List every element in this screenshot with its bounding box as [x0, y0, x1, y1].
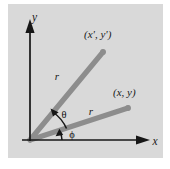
ray-rotated-endpoint-dot	[100, 49, 106, 55]
figure-root: y x (x', y') (x, y) r r θ ϕ	[0, 0, 170, 169]
y-axis-label: y	[31, 11, 38, 24]
ray-original-endpoint-dot	[125, 105, 131, 111]
phi-angle-label: ϕ	[69, 129, 75, 140]
original-ray-length-label: r	[89, 105, 94, 117]
x-axis-label: x	[151, 135, 158, 147]
polar-rotation-diagram: y x (x', y') (x, y) r r θ ϕ	[0, 0, 170, 169]
original-point-label: (x, y)	[113, 86, 136, 99]
rotated-ray-length-label: r	[55, 70, 60, 82]
rotated-point-label: (x', y')	[84, 28, 112, 41]
theta-angle-label: θ	[61, 109, 66, 120]
